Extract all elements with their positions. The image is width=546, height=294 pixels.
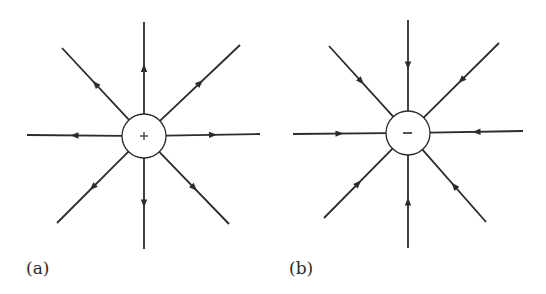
arrow-head-icon [405,198,411,206]
field-lines-diagram [0,0,546,294]
panel-a [27,22,260,249]
arrow-head-icon [405,62,411,70]
arrow-head-icon [141,64,147,72]
panel-b-label: (b) [289,258,313,278]
arrow-head-icon [141,200,147,208]
arrow-head-icon [209,132,217,138]
arrow-head-icon [335,130,343,136]
panel-b [293,20,523,248]
arrow-head-icon [71,132,79,138]
arrow-head-icon [472,129,480,135]
panel-a-label: (a) [26,258,49,278]
